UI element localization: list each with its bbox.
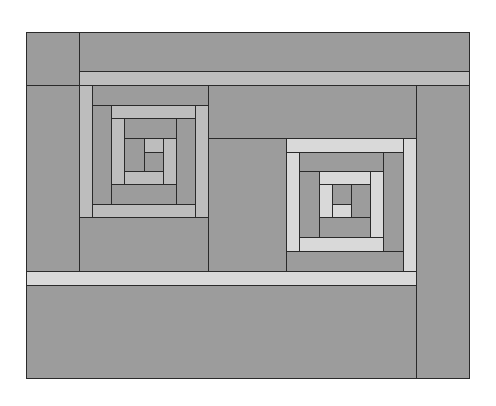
quilt-piece-left-block-bottom-strip — [92, 204, 196, 218]
quilt-piece-left-block-center-top — [144, 138, 164, 153]
quilt-piece-right-block-ring2-right — [383, 152, 404, 252]
quilt-piece-right-block-center-top — [332, 184, 352, 205]
quilt-piece-left-block-center-left — [124, 138, 145, 172]
quilt-piece-right-block-bottom-strip — [286, 251, 404, 272]
quilt-piece-middle-filler — [208, 138, 288, 272]
quilt-piece-top-left-corner — [26, 32, 80, 86]
quilt-piece-left-block-center-bottom — [144, 152, 164, 172]
quilt-piece-left-block-ring3-right — [163, 138, 177, 185]
quilt-piece-left-block-ring2-right — [176, 118, 196, 205]
quilt-piece-bottom-light-strip — [26, 271, 417, 286]
quilt-piece-left-block-ring3-top — [124, 118, 177, 139]
quilt-piece-left-block-ring2-bottom — [111, 184, 177, 205]
quilt-piece-top-light-strip — [79, 71, 470, 86]
quilt-piece-right-block-ring3-left — [319, 184, 333, 218]
quilt-piece-right-block-center-bottom — [332, 204, 352, 218]
quilt-piece-left-column — [26, 85, 80, 272]
quilt-piece-right-block-ring2-bottom — [299, 237, 384, 252]
quilt-piece-left-block-left-strip — [79, 85, 93, 218]
quilt-piece-left-block-ring3-left — [111, 118, 125, 185]
quilt-piece-left-block-top-strip — [92, 85, 209, 106]
quilt-piece-right-block-ring3-right — [370, 171, 384, 238]
quilt-piece-left-block-ring2-left — [92, 105, 113, 205]
quilt-piece-right-block-ring3-top — [319, 171, 372, 185]
quilt-piece-right-block-ring2-top — [299, 152, 385, 172]
quilt-piece-right-block-center-right — [351, 184, 371, 218]
quilt-piece-right-block-top-strip — [286, 138, 405, 153]
quilt-piece-middle-top-block — [208, 85, 417, 139]
quilt-piece-right-block-left-strip — [286, 152, 300, 252]
quilt-piece-right-block-ring3-bottom — [319, 217, 371, 238]
quilt-piece-left-block-below — [79, 217, 209, 272]
quilt-piece-left-block-ring3-bottom — [124, 171, 164, 185]
quilt-piece-bottom-band — [26, 285, 417, 379]
quilt-piece-left-block-ring2-top — [111, 105, 196, 119]
quilt-piece-right-column — [416, 85, 470, 379]
quilt-piece-left-block-right-strip — [195, 105, 209, 218]
quilt-piece-top-band — [79, 32, 470, 72]
quilt-piece-right-block-right-strip — [403, 138, 417, 272]
quilt-piece-right-block-ring2-left — [299, 171, 320, 238]
log-cabin-quilt — [0, 0, 496, 406]
